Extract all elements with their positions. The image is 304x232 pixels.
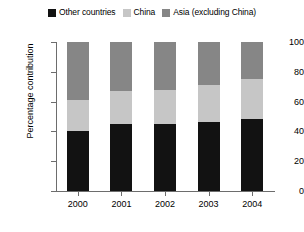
chart-legend: Other countriesChinaAsia (excluding Chin… [0,8,304,17]
stacked-bar-chart: Other countriesChinaAsia (excluding Chin… [0,0,304,232]
legend-item-label: Asia (excluding China) [173,8,256,17]
x-axis-tick [78,192,79,196]
bar-stack [67,42,89,191]
x-axis-tick [252,192,253,196]
legend-item: Asia (excluding China) [162,8,256,17]
bar-segment [241,119,263,191]
bar-segment [110,42,132,91]
bar-segment [198,42,220,85]
legend-item: Other countries [48,8,116,17]
legend-item-label: China [134,8,156,17]
bar-segment [67,131,89,191]
bar-segment [198,122,220,191]
legend-item: China [123,8,156,17]
bar-segment [241,79,263,119]
x-axis-tick-label: 2000 [68,199,88,209]
legend-item-label: Other countries [59,8,116,17]
x-axis-tick [165,192,166,196]
x-axis-tick [121,192,122,196]
x-axis-tick [209,192,210,196]
bar-stack [154,42,176,191]
legend-swatch-asia [162,9,170,17]
bar-segment [67,42,89,100]
x-axis-tick-label: 2001 [111,199,131,209]
bar-segment [154,90,176,124]
bar-segment [67,100,89,131]
bar-stack [198,42,220,191]
bar-segment [110,91,132,124]
bar-segment [154,42,176,90]
legend-swatch-other-countries [48,9,56,17]
y-axis-title: Percentage contribution [25,21,35,161]
bar-stack [110,42,132,191]
x-axis-tick-label: 2003 [199,199,219,209]
x-axis-tick-label: 2002 [155,199,175,209]
y-axis-tick [51,191,56,192]
bar-stack [241,42,263,191]
bar-segment [241,42,263,79]
x-axis-tick-label: 2004 [242,199,262,209]
plot-area [56,42,274,191]
bar-segment [198,85,220,122]
legend-swatch-china [123,9,131,17]
bar-segment [154,124,176,191]
bar-segment [110,124,132,191]
